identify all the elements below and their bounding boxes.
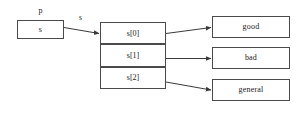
arrow-cell0-to-good bbox=[166, 28, 211, 34]
string-box-label: bad bbox=[245, 54, 257, 62]
pointer-array-diagram: p s s s[0] s[1] s[2] good bad general bbox=[0, 0, 300, 113]
pointer-box-label: s bbox=[39, 26, 42, 34]
array-cell: s[2] bbox=[100, 67, 166, 89]
array-cell-label: s[2] bbox=[127, 73, 139, 82]
array-cell-label: s[1] bbox=[127, 51, 139, 60]
string-box: bad bbox=[212, 47, 290, 69]
string-box-label: good bbox=[243, 23, 260, 31]
array-cell: s[0] bbox=[100, 22, 166, 44]
pointer-edge-label: s bbox=[79, 13, 82, 22]
arrow-pointer-to-array bbox=[64, 28, 99, 34]
array-stack: s[0] s[1] s[2] bbox=[100, 22, 166, 89]
pointer-variable-label: p bbox=[17, 6, 64, 15]
array-cell: s[1] bbox=[100, 44, 166, 66]
array-cell-label: s[0] bbox=[127, 29, 139, 38]
arrow-cell2-to-general bbox=[166, 82, 211, 90]
string-box: general bbox=[212, 79, 290, 101]
pointer-box: s bbox=[17, 20, 64, 39]
string-box-label: general bbox=[239, 86, 264, 94]
string-box: good bbox=[212, 16, 290, 38]
